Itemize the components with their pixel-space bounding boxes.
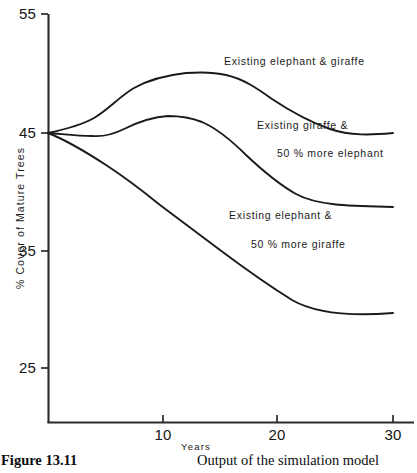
figure-caption-row: Figure 13.11 Output of the simulation mo… xyxy=(0,452,417,473)
annotation-existing-elephant-line2: 50 % more giraffe xyxy=(251,238,346,250)
y-axis-ticks xyxy=(41,14,48,368)
x-tick-label-30: 30 xyxy=(376,426,410,443)
y-tick-label-55: 55 xyxy=(6,5,36,22)
x-tick-label-20: 20 xyxy=(260,426,294,443)
figure-container: 55 45 35 25 10 20 30 % Cover of Mature T… xyxy=(0,0,417,473)
y-tick-label-25: 25 xyxy=(6,359,36,376)
y-axis-title: % Cover of Mature Trees xyxy=(14,118,26,318)
annotation-existing-giraffe-line2: 50 % more elephant xyxy=(277,147,384,159)
annotation-existing-giraffe-line1: Existing giraffe & xyxy=(257,119,348,131)
figure-number: Figure 13.11 xyxy=(1,452,77,469)
x-axis-title: Years xyxy=(181,441,211,452)
simulation-line-chart xyxy=(0,0,417,473)
series-line-existing-elephant-and-50-more-giraffe xyxy=(48,133,393,314)
annotation-existing-elephant-line1: Existing elephant & xyxy=(229,209,332,221)
annotation-existing-elephant-and-giraffe: Existing elephant & giraffe xyxy=(224,55,365,67)
figure-caption-text: Output of the simulation model xyxy=(197,452,379,469)
x-tick-label-10: 10 xyxy=(146,426,180,443)
